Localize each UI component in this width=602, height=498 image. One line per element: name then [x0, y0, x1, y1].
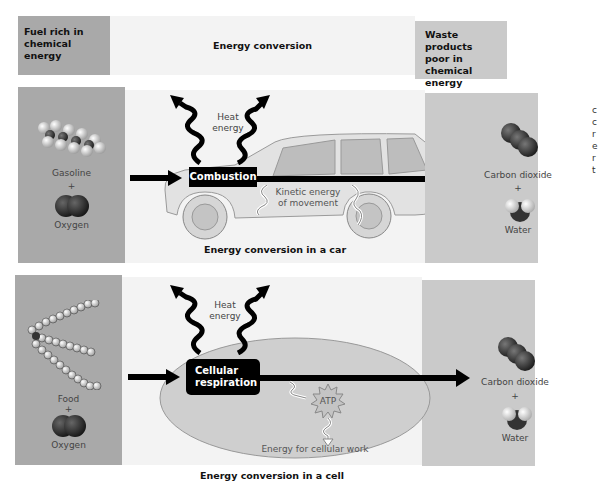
cellular-respiration-process-box: Cellular respiration [186, 359, 260, 395]
header-waste-line2: poor in chemical [425, 53, 507, 77]
car-co2-label: Carbon dioxide [480, 170, 556, 181]
cell-heat-label: Heat energy [205, 300, 245, 322]
cellular-work-label: Energy for cellular work [240, 444, 390, 455]
car-water-label: Water [480, 225, 556, 236]
atp-output-arrow-icon [320, 418, 336, 446]
cell-output-arrow-shaft [255, 375, 458, 381]
gasoline-molecule-icon [36, 118, 108, 158]
header-fuel-line3: energy [24, 50, 83, 62]
car-outputs-plus: + [480, 183, 556, 194]
food-molecule-icon [22, 300, 110, 390]
car-input-arrowhead-icon [168, 170, 182, 186]
header-waste-box: Waste products poor in chemical energy [415, 21, 507, 79]
cell-oxygen-molecule-icon [52, 414, 86, 438]
header-waste-line3: energy [425, 77, 507, 89]
heat-arrow-left-icon [168, 95, 208, 165]
header-fuel-box: Fuel rich in chemical energy [18, 16, 110, 75]
cell-heat-arrow-left-icon [168, 285, 208, 355]
car-inputs-plus: + [18, 181, 125, 192]
header-waste-line1: Waste products [425, 29, 507, 53]
header-conversion-label: Energy conversion [110, 40, 415, 52]
kinetic-arrow-right-icon [350, 185, 366, 225]
car-heat-label: Heat energy [208, 112, 248, 134]
cell-oxygen-label: Oxygen [15, 440, 122, 451]
combustion-process-box: Combustion [189, 167, 257, 187]
car-caption: Energy conversion in a car [125, 244, 425, 255]
cell-input-arrow-shaft [128, 374, 168, 380]
cell-co2-label: Carbon dioxide [477, 377, 553, 388]
cell-output-arrowhead-icon [456, 369, 470, 387]
co2-molecule-icon [500, 122, 540, 158]
header-fuel-line1: Fuel rich in [24, 26, 83, 38]
header-conversion-box: Energy conversion [110, 16, 415, 75]
header-fuel-line2: chemical [24, 38, 83, 50]
cell-water-label: Water [477, 433, 553, 444]
car-oxygen-label: Oxygen [18, 220, 125, 231]
gasoline-label: Gasoline [18, 168, 125, 179]
cell-caption: Energy conversion in a cell [122, 470, 422, 481]
oxygen-molecule-icon [55, 194, 89, 218]
atp-input-arrow-icon [288, 380, 310, 402]
edge-text-column: c c r e r t [592, 104, 598, 176]
kinetic-energy-label: Kinetic energy of movement [268, 187, 348, 209]
car-input-arrow-shaft [130, 175, 170, 181]
cell-co2-molecule-icon [497, 336, 537, 372]
cell-outputs-plus: + [477, 391, 553, 402]
cell-water-molecule-icon [502, 405, 532, 431]
water-molecule-icon [505, 197, 535, 223]
atp-label: ATP [311, 396, 345, 407]
cell-input-arrowhead-icon [166, 369, 180, 385]
